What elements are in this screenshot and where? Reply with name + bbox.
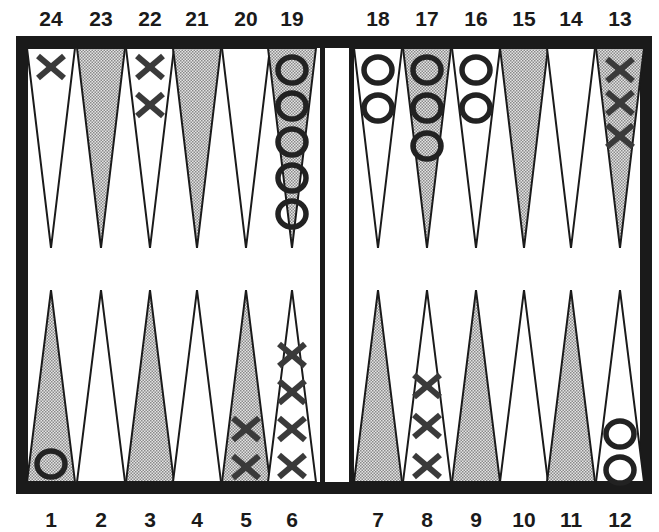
point-label-24: 24 [39,7,63,30]
point-label-20: 20 [234,7,257,30]
backgammon-board: 242322212019181716151413 123456789101112 [0,0,659,532]
point-label-2: 2 [95,508,107,531]
point-label-19: 19 [280,7,303,30]
point-label-23: 23 [89,7,112,30]
point-label-14: 14 [559,7,583,30]
point-label-12: 12 [608,508,631,531]
point-label-22: 22 [138,7,161,30]
point-label-8: 8 [421,508,433,531]
point-label-7: 7 [372,508,384,531]
point-label-6: 6 [286,508,298,531]
point-label-11: 11 [560,508,583,531]
point-label-17: 17 [415,7,438,30]
point-label-4: 4 [191,508,203,531]
top-point-labels: 242322212019181716151413 [39,7,631,30]
point-label-1: 1 [45,508,57,531]
point-label-10: 10 [512,508,535,531]
point-label-3: 3 [144,508,156,531]
point-label-21: 21 [185,7,209,30]
point-label-16: 16 [464,7,487,30]
point-label-15: 15 [512,7,536,30]
point-label-13: 13 [608,7,631,30]
point-label-9: 9 [470,508,482,531]
point-label-18: 18 [366,7,390,30]
bottom-point-labels: 123456789101112 [45,508,632,531]
point-label-5: 5 [240,508,252,531]
